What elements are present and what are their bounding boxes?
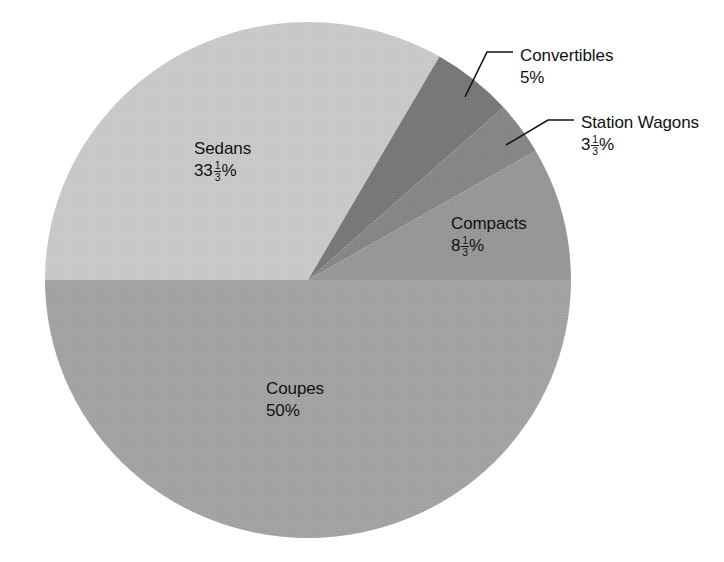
- pie-label-convertibles-name: Convertibles: [520, 45, 613, 67]
- fraction-denominator: 3: [461, 247, 469, 258]
- fraction-numerator: 1: [214, 160, 222, 171]
- mixed-number-sedans: 33 1 3 %: [194, 160, 237, 182]
- pie-label-compacts-value: 8 1 3 %: [451, 235, 527, 257]
- pie-label-sedans-name: Sedans: [194, 138, 251, 160]
- pie-label-station-wagons-name: Station Wagons: [581, 112, 699, 134]
- pie-label-coupes: Coupes 50%: [266, 378, 324, 422]
- fraction: 1 3: [591, 134, 599, 156]
- fraction: 1 3: [214, 160, 222, 182]
- pie-label-station-wagons-value: 3 1 3 %: [581, 134, 699, 156]
- mixed-number-whole: 33: [194, 160, 213, 182]
- fraction-denominator: 3: [591, 146, 599, 157]
- pie-texture-overlay: [45, 22, 571, 538]
- pie-chart: Sedans 33 1 3 % Coupes 50% Compacts 8 1: [0, 0, 724, 562]
- percent-sign: %: [469, 235, 484, 257]
- pie-label-convertibles: Convertibles 5%: [520, 45, 613, 89]
- mixed-number-whole: 3: [581, 134, 590, 156]
- mixed-number-compacts: 8 1 3 %: [451, 235, 484, 257]
- fraction-numerator: 1: [461, 235, 469, 246]
- pie-label-coupes-name: Coupes: [266, 378, 324, 400]
- pie-label-coupes-value: 50%: [266, 400, 324, 422]
- percent-sign: %: [221, 160, 236, 182]
- pie-chart-canvas: [0, 0, 724, 562]
- pie-label-compacts: Compacts 8 1 3 %: [451, 213, 527, 257]
- pie-label-station-wagons: Station Wagons 3 1 3 %: [581, 112, 699, 156]
- fraction-numerator: 1: [591, 134, 599, 145]
- pie-label-compacts-name: Compacts: [451, 213, 527, 235]
- fraction: 1 3: [461, 235, 469, 257]
- fraction-denominator: 3: [214, 172, 222, 183]
- mixed-number-whole: 8: [451, 235, 460, 257]
- pie-label-sedans-value: 33 1 3 %: [194, 160, 251, 182]
- percent-sign: %: [599, 134, 614, 156]
- pie-label-sedans: Sedans 33 1 3 %: [194, 138, 251, 182]
- mixed-number-station-wagons: 3 1 3 %: [581, 134, 614, 156]
- pie-label-convertibles-value: 5%: [520, 67, 613, 89]
